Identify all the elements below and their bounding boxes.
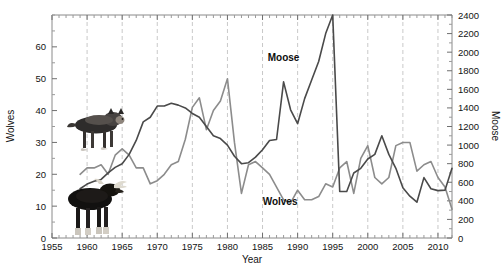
y2-tick-label-400: 400 — [458, 195, 474, 206]
series-group — [80, 15, 452, 209]
y-axis-left-ticks — [52, 15, 57, 238]
x-axis-tick-labels: 1955196019651970197519801985199019952000… — [41, 241, 448, 252]
y-tick-label-60: 60 — [35, 41, 46, 52]
y2-tick-label-1600: 1600 — [458, 84, 479, 95]
y2-tick-label-800: 800 — [458, 158, 474, 169]
x-tick-label-1980: 1980 — [217, 241, 238, 252]
moose-illustration — [68, 179, 127, 235]
y-axis-right-title: Moose — [490, 111, 501, 141]
y2-tick-label-600: 600 — [458, 177, 474, 188]
x-tick-label-1970: 1970 — [147, 241, 168, 252]
x-tick-label-2005: 2005 — [392, 241, 413, 252]
x-tick-label-1985: 1985 — [252, 241, 273, 252]
y-axis-left-title: Wolves — [5, 110, 16, 143]
x-axis-title: Year — [242, 254, 263, 265]
chart-canvas: 1955196019651970197519801985199019952000… — [0, 0, 503, 270]
y-tick-label-10: 10 — [35, 201, 46, 212]
wolves-series-label: Wolves — [263, 196, 298, 207]
y2-tick-label-2400: 2400 — [458, 10, 479, 21]
y2-tick-label-2200: 2200 — [458, 28, 479, 39]
y2-tick-label-1000: 1000 — [458, 140, 479, 151]
moose-series-label: Moose — [268, 52, 300, 63]
y2-tick-label-1400: 1400 — [458, 102, 479, 113]
x-tick-label-2010: 2010 — [427, 241, 448, 252]
y-tick-label-40: 40 — [35, 105, 46, 116]
wolf-moose-population-chart: 1955196019651970197519801985199019952000… — [0, 0, 503, 270]
y2-tick-label-1200: 1200 — [458, 121, 479, 132]
y-tick-label-30: 30 — [35, 137, 46, 148]
x-tick-label-1990: 1990 — [287, 241, 308, 252]
y2-tick-label-1800: 1800 — [458, 65, 479, 76]
x-tick-label-1960: 1960 — [77, 241, 98, 252]
animal-illustrations — [67, 108, 127, 235]
x-tick-label-1995: 1995 — [322, 241, 343, 252]
series-line-moose — [80, 15, 452, 202]
y2-tick-label-2000: 2000 — [458, 47, 479, 58]
y2-tick-label-0: 0 — [458, 233, 463, 244]
y-axis-right-tick-labels: 0200400600800100012001400160018002000220… — [458, 10, 479, 244]
wolf-illustration — [67, 108, 125, 151]
y-tick-label-20: 20 — [35, 169, 46, 180]
x-tick-label-1965: 1965 — [112, 241, 133, 252]
annotation-group: MooseWolves — [263, 52, 300, 206]
x-tick-label-2000: 2000 — [357, 241, 378, 252]
y-axis-left-tick-labels: 0102030405060 — [35, 41, 46, 243]
y-tick-label-0: 0 — [41, 233, 46, 244]
y2-tick-label-200: 200 — [458, 214, 474, 225]
y-tick-label-50: 50 — [35, 73, 46, 84]
x-tick-label-1975: 1975 — [182, 241, 203, 252]
